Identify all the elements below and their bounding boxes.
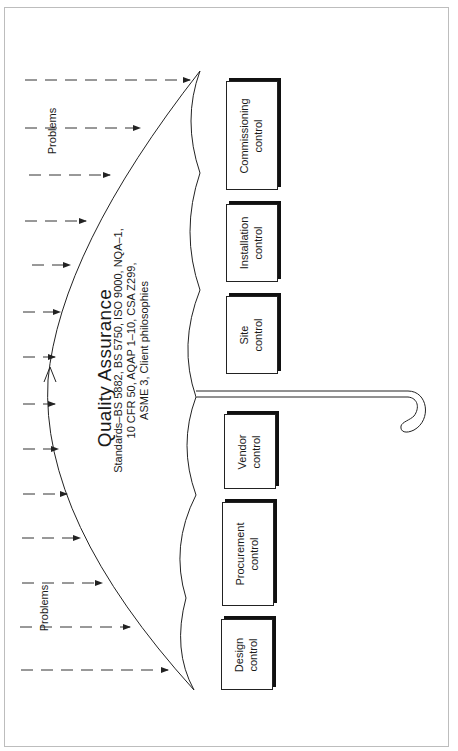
installation-control-box: Installation control xyxy=(226,204,278,282)
standards-text: Standards–BS 5882, BS 5750, ISO 9000, NQ… xyxy=(112,210,151,492)
box-label-line1: Vendor xyxy=(235,416,249,488)
box-label-line2: control xyxy=(251,86,265,186)
box-label-line2: control xyxy=(247,504,261,604)
box-label-line2: control xyxy=(249,416,263,488)
box-label-line2: control xyxy=(251,297,265,373)
commissioning-control-box: Commissioning control xyxy=(226,81,278,190)
standards-line-3: ASME 3, Client philosophies xyxy=(138,210,151,492)
procurement-control-box: Procurement control xyxy=(222,502,274,606)
box-label-line1: Commissioning xyxy=(237,86,251,186)
box-label-line1: Installation xyxy=(237,205,251,281)
vendor-control-box: Vendor control xyxy=(224,414,276,489)
standards-line-1: Standards–BS 5882, BS 5750, ISO 9000, NQ… xyxy=(112,210,125,492)
box-label-line1: Site xyxy=(237,297,251,373)
problems-label-bottom: Problems xyxy=(37,578,51,638)
box-label-line1: Design xyxy=(232,620,246,690)
box-label-line2: control xyxy=(246,620,260,690)
problems-label-top: Problems xyxy=(45,101,59,161)
site-control-box: Site control xyxy=(226,296,278,374)
standards-line-2: 10 CFR 50, AQAP 1–10, CSA Z299, xyxy=(125,210,138,492)
box-label-line1: Procurement xyxy=(233,504,247,604)
box-label-line2: control xyxy=(251,205,265,281)
design-control-box: Design control xyxy=(221,619,273,690)
